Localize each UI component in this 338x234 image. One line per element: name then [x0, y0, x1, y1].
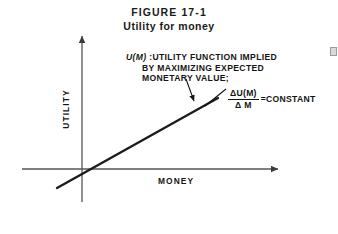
slope-formula: ΔU(M) Δ M =CONSTANT	[228, 88, 316, 110]
fraction: ΔU(M) Δ M	[228, 88, 259, 110]
x-axis-label: MONEY	[158, 176, 194, 186]
annotation-line-2: BY MAXIMIZING EXPECTED	[126, 63, 277, 74]
utility-function-annotation: U(M) :UTILITY FUNCTION IMPLIED BY MAXIMI…	[126, 52, 277, 84]
fraction-denominator: Δ M	[233, 100, 254, 111]
formula-leader-line	[205, 89, 226, 106]
annotation-line-1: U(M) :UTILITY FUNCTION IMPLIED	[126, 52, 277, 63]
utility-function-line	[57, 98, 218, 188]
y-axis-label: UTILITY	[61, 89, 71, 128]
utility-symbol: U(M)	[126, 52, 147, 62]
utility-for-money-chart	[0, 0, 338, 234]
figure-page: FIGURE 17-1 Utility for money U(M) :UTIL…	[0, 0, 338, 234]
annotation-line-1-rest: :UTILITY FUNCTION IMPLIED	[147, 52, 278, 62]
scan-artifact	[330, 47, 337, 56]
formula-equals-constant: =CONSTANT	[261, 94, 316, 104]
fraction-numerator: ΔU(M)	[228, 88, 259, 100]
annotation-line-3: MONETARY VALUE;	[126, 73, 277, 84]
